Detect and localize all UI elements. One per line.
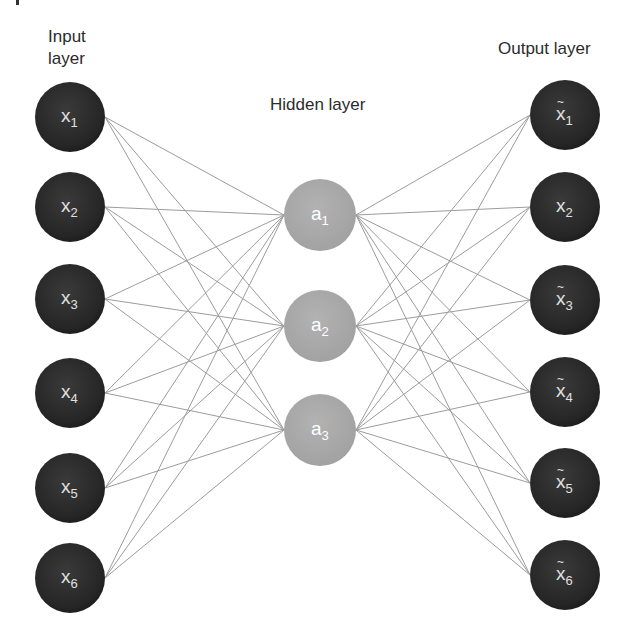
hidden-node-2: a2 [284,290,356,362]
edge-x5-a1 [105,215,284,488]
input-node-3: x3 [35,264,105,334]
output-node-4: x4~ [530,357,600,427]
edge-x4-a1 [105,215,284,393]
edge-a1-xt3 [356,215,530,300]
edge-a2-xt6 [356,326,530,575]
edge-a2-xt1 [356,115,530,326]
input-node-2: x2 [35,172,105,242]
edge-x5-a3 [105,430,284,488]
tilde-mark: ~ [557,372,564,386]
input-node-1: x1 [35,82,105,152]
edge-a3-xt5 [356,430,530,483]
edge-x2-a1 [105,207,284,215]
edge-x3-a1 [105,215,284,299]
output-node-3: x3~ [530,265,600,335]
output-node-6: x6~ [530,540,600,610]
edge-a1-xt2 [356,207,530,215]
tilde-mark: ~ [557,555,564,569]
input-node-4: x4 [35,358,105,428]
output-node-1: x1~ [530,80,600,150]
edge-a3-xt1 [356,115,530,430]
output-node-5: x5~ [530,448,600,518]
network-diagram: x1x2x3x4x5x6a1a2a3x1~x2x3~x4~x5~x6~ [0,0,644,639]
edge-a1-xt6 [356,215,530,575]
edge-x3-a2 [105,299,284,326]
edge-x1-a1 [105,117,284,215]
edge-a1-xt1 [356,115,530,215]
edge-x1-a2 [105,117,284,326]
input-node-5: x5 [35,453,105,523]
tilde-mark: ~ [557,95,564,109]
edge-x2-a2 [105,207,284,326]
edge-a3-xt2 [356,207,530,430]
edge-a3-xt6 [356,430,530,575]
edge-a2-xt2 [356,207,530,326]
edge-x4-a3 [105,393,284,430]
hidden-node-1: a1 [284,179,356,251]
edge-x5-a2 [105,326,284,488]
output-node-2: x2 [530,172,600,242]
tilde-mark: ~ [557,280,564,294]
nodes-group: x1x2x3x4x5x6a1a2a3x1~x2x3~x4~x5~x6~ [35,80,600,613]
tilde-mark: ~ [557,463,564,477]
input-node-6: x6 [35,543,105,613]
hidden-node-3: a3 [284,394,356,466]
